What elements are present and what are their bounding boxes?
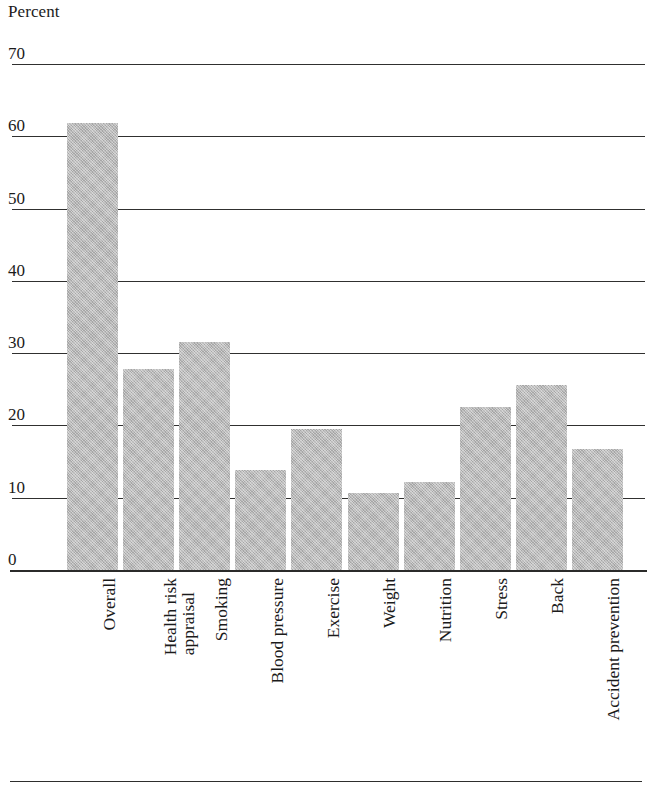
bar-back [516,385,567,570]
x-axis-label-smoking: Smoking [212,578,231,641]
x-axis-label-blood-pressure: Blood pressure [268,578,287,683]
x-axis-category-labels: OverallHealth riskappraisalSmokingBlood … [0,572,654,782]
x-label-line: Accident prevention [603,578,623,720]
x-axis-label-nutrition: Nutrition [436,578,455,642]
x-label-line: appraisal [179,578,197,655]
x-axis-label-exercise: Exercise [324,578,343,638]
bottom-rule [10,781,642,782]
x-label-line: Blood pressure [267,578,287,683]
bar-stress [460,407,511,570]
x-axis-label-back: Back [548,578,567,614]
bar-weight [348,493,399,570]
x-label-line: Back [547,578,567,614]
bar-nutrition [404,482,455,570]
bar-overall [67,123,118,570]
x-axis-label-health-risk-appraisal: Health riskappraisal [162,578,198,655]
bar-blood-pressure [235,470,286,570]
x-label-line: Exercise [323,578,343,638]
x-label-line: Nutrition [435,578,455,642]
bar-health-risk-appraisal [123,369,174,570]
x-axis-label-weight: Weight [380,578,399,628]
x-axis-label-stress: Stress [492,578,511,620]
x-label-line: Overall [99,578,119,630]
bars-group [0,0,654,580]
x-label-line: Health risk [160,578,180,655]
bar-chart-figure: Percent 010203040506070 OverallHealth ri… [0,0,654,800]
x-axis-label-accident-prevention: Accident prevention [604,578,623,720]
x-label-line: Smoking [211,578,231,641]
x-label-line: Stress [491,578,511,620]
bar-exercise [291,429,342,570]
plot-area: 010203040506070 [0,0,654,580]
bar-smoking [179,342,230,570]
x-axis-label-overall: Overall [100,578,119,630]
bar-accident-prevention [572,449,623,570]
x-label-line: Weight [379,578,399,628]
